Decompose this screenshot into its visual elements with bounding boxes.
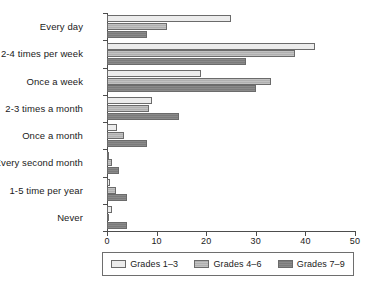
category-label: Every second month	[0, 157, 83, 168]
bar	[107, 70, 201, 77]
bar	[107, 85, 256, 92]
bar	[107, 97, 152, 104]
x-axis	[107, 231, 356, 232]
bar	[107, 194, 127, 201]
legend-swatch-grades-1-3	[111, 260, 126, 268]
legend-item: Grades 7–9	[278, 259, 345, 269]
category-label: Every day	[40, 21, 83, 32]
bar	[107, 159, 112, 166]
bar-group: Once a month	[107, 122, 355, 149]
bar	[107, 206, 112, 213]
category-label: Never	[57, 212, 83, 223]
x-axis-tick-label: 30	[251, 236, 261, 246]
category-label: 2-4 times per week	[1, 48, 83, 59]
legend-swatch-grades-4-6	[194, 260, 209, 268]
bar	[107, 113, 179, 120]
bar	[107, 214, 109, 221]
bar	[107, 78, 271, 85]
plot-area: Every day2-4 times per weekOnce a week2-…	[107, 13, 355, 231]
x-axis-tick-label: 0	[104, 236, 109, 246]
legend-item: Grades 1–3	[111, 259, 178, 269]
bar-group: 2-4 times per week	[107, 40, 355, 67]
bar	[107, 140, 147, 147]
bar-group: Every second month	[107, 149, 355, 176]
bar	[107, 105, 149, 112]
bar	[107, 15, 231, 22]
x-axis-tick-label: 40	[300, 236, 310, 246]
bar	[107, 167, 119, 174]
bar	[107, 58, 246, 65]
bar	[107, 23, 167, 30]
legend-label: Grades 1–3	[130, 259, 178, 269]
x-axis-tick-label: 50	[350, 236, 360, 246]
category-label: Once a month	[22, 130, 83, 141]
bar-group: Never	[107, 204, 355, 231]
legend-label: Grades 4–6	[213, 259, 261, 269]
bar-chart: Every day2-4 times per weekOnce a week2-…	[0, 0, 371, 287]
bar-group: 1-5 time per year	[107, 177, 355, 204]
bar-group: Every day	[107, 13, 355, 40]
legend-label: Grades 7–9	[297, 259, 345, 269]
bar	[107, 31, 147, 38]
bar	[107, 187, 116, 194]
bar	[107, 152, 109, 159]
bar	[107, 132, 124, 139]
x-axis-tick-label: 10	[151, 236, 161, 246]
chart-legend: Grades 1–3 Grades 4–6 Grades 7–9	[102, 252, 354, 276]
legend-swatch-grades-7-9	[278, 260, 293, 268]
legend-item: Grades 4–6	[194, 259, 261, 269]
category-label: 2-3 times a month	[5, 103, 83, 114]
bar	[107, 222, 127, 229]
bar-group: Once a week	[107, 68, 355, 95]
y-axis-tick	[103, 13, 107, 14]
bar	[107, 43, 315, 50]
bar-group: 2-3 times a month	[107, 95, 355, 122]
bar	[107, 124, 117, 131]
x-axis-tick-label: 20	[201, 236, 211, 246]
category-label: Once a week	[26, 76, 83, 87]
category-label: 1-5 time per year	[9, 185, 83, 196]
bar	[107, 50, 295, 57]
bar	[107, 179, 110, 186]
